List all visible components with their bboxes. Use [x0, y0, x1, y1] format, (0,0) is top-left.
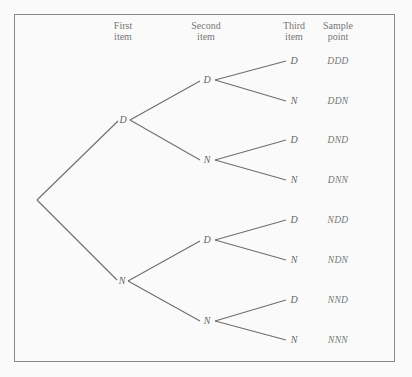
node-level3: D — [290, 215, 297, 225]
node-level2: N — [204, 316, 211, 326]
sample-point: DND — [328, 135, 349, 145]
node-level3: D — [290, 295, 297, 305]
node-level2: N — [204, 155, 211, 165]
node-level3: D — [290, 56, 297, 66]
sample-point: NDD — [328, 215, 349, 225]
sample-point: DDN — [328, 96, 349, 106]
node-level3: D — [290, 135, 297, 145]
sample-point: NDN — [328, 255, 348, 265]
node-level1: N — [119, 276, 126, 286]
sample-point: DNN — [328, 175, 348, 185]
sample-point: NND — [328, 295, 348, 305]
node-level3: N — [291, 96, 298, 106]
header-first-item: Firstitem — [93, 20, 153, 42]
header-second-item: Seconditem — [176, 20, 236, 42]
node-level3: N — [291, 175, 298, 185]
header-sample-point: Samplepoint — [308, 20, 368, 42]
sample-point: DDD — [327, 56, 348, 66]
node-level2: D — [203, 235, 210, 245]
node-level3: N — [291, 335, 298, 345]
node-level3: N — [291, 255, 298, 265]
node-level2: D — [203, 75, 210, 85]
sample-point: NNN — [328, 335, 348, 345]
node-level1: D — [119, 115, 126, 125]
